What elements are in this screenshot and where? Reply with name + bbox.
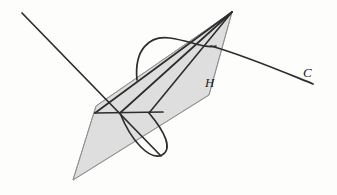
- label-h: H: [205, 76, 214, 89]
- figure-canvas: H C: [0, 0, 337, 195]
- curve-c: [211, 46, 313, 84]
- geometry-illustration: [0, 0, 337, 195]
- label-c: C: [303, 66, 312, 79]
- horizontal-chord: [95, 112, 163, 113]
